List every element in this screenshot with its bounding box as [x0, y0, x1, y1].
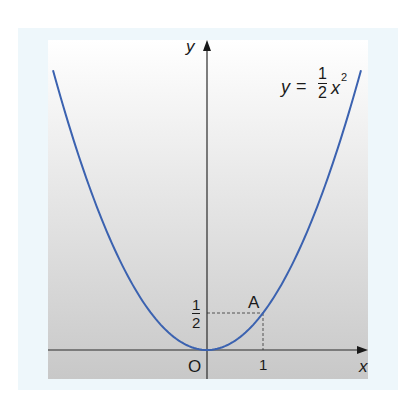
equation-denominator: 2: [318, 85, 327, 101]
equation-equals: =: [296, 77, 307, 95]
x-axis-label: x: [359, 358, 368, 375]
y-tick-label-half: 1 2: [192, 297, 200, 330]
point-a-label: A: [248, 294, 259, 311]
origin-label: O: [188, 358, 201, 375]
equation-exponent: 2: [341, 72, 347, 83]
plot-area: [0, 0, 413, 411]
y-tick-denominator: 2: [192, 315, 200, 330]
equation-variable: x: [331, 79, 340, 97]
equation-lhs: y: [281, 78, 290, 96]
equation-fraction: 1 2: [318, 66, 327, 101]
equation-numerator: 1: [318, 66, 327, 82]
y-axis-label: y: [186, 38, 195, 55]
x-tick-label-1: 1: [259, 357, 267, 372]
y-tick-numerator: 1: [192, 297, 200, 312]
